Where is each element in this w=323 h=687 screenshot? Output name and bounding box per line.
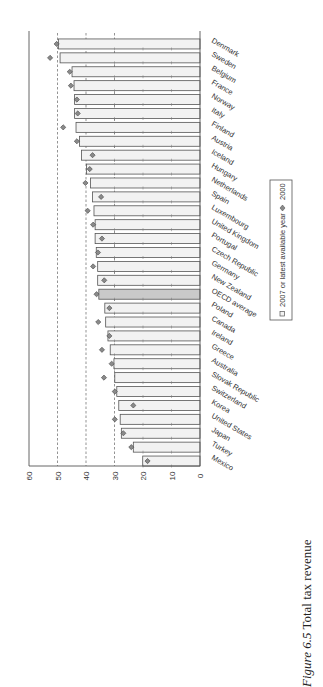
- diamond-marker: [94, 292, 99, 297]
- diamond-marker: [112, 417, 117, 422]
- bar: [117, 387, 200, 397]
- bar: [99, 289, 200, 299]
- bar: [74, 81, 200, 91]
- bar: [79, 136, 200, 146]
- bar: [96, 247, 200, 257]
- diamond-marker: [83, 180, 88, 185]
- tick-label: 10: [168, 471, 177, 480]
- legend-label-2007: 2007 or latest available year: [278, 213, 287, 307]
- tick-label: 30: [111, 471, 120, 480]
- bar: [98, 261, 200, 271]
- bar: [93, 192, 200, 202]
- bar: [98, 275, 200, 285]
- category-label: Italy: [210, 105, 227, 120]
- tick-label: 20: [139, 471, 148, 480]
- bar: [110, 345, 200, 355]
- category-label: Mexico: [210, 453, 235, 473]
- legend: 2007 or latest available year 2000: [270, 180, 292, 320]
- bar: [121, 428, 200, 438]
- category-labels: DenmarkSwedenBelgiumFranceNorwayItalyFin…: [210, 36, 261, 473]
- bars-2007: [58, 39, 200, 468]
- bar: [75, 95, 200, 105]
- diamond-marker: [74, 139, 79, 144]
- bar: [108, 331, 200, 341]
- bar: [115, 373, 200, 383]
- bar: [106, 317, 200, 327]
- diamond-marker: [96, 319, 101, 324]
- figure-label: Figure 6.5: [299, 633, 314, 687]
- tick-label: 60: [25, 471, 34, 480]
- legend-label-2000: 2000: [278, 183, 287, 200]
- bar: [95, 220, 200, 230]
- bar: [114, 359, 200, 369]
- diamond-marker: [68, 83, 73, 88]
- bar: [75, 108, 200, 118]
- bar: [143, 456, 200, 466]
- bar: [91, 178, 200, 188]
- bar: [95, 234, 200, 244]
- bar: [105, 303, 200, 313]
- diamond-marker: [61, 125, 66, 130]
- bar: [133, 442, 200, 452]
- diamond-marker: [101, 375, 106, 380]
- legend-square-icon: [280, 312, 285, 317]
- diamond-marker: [109, 361, 114, 366]
- bar: [76, 122, 200, 132]
- bar: [94, 206, 200, 216]
- tick-label: 0: [196, 473, 205, 478]
- diamond-marker: [91, 264, 96, 269]
- tick-label: 40: [82, 471, 91, 480]
- tick-label: 50: [54, 471, 63, 480]
- figure-title: Total tax revenue: [299, 540, 314, 630]
- diamond-marker: [67, 69, 72, 74]
- tax-revenue-chart: 0102030405060 DenmarkSwedenBelgiumFrance…: [0, 0, 323, 687]
- diamond-marker: [47, 55, 52, 60]
- bar: [60, 53, 200, 63]
- bar: [72, 67, 200, 77]
- figure-caption: Figure 6.5 Total tax revenue: [299, 540, 315, 687]
- diamond-marker: [99, 347, 104, 352]
- bar: [58, 39, 200, 49]
- bar: [81, 150, 200, 160]
- bar: [120, 414, 200, 424]
- bar: [87, 164, 200, 174]
